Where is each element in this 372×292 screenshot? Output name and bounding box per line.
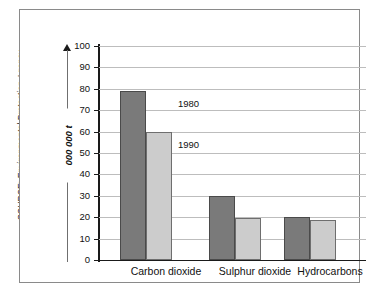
y-axis-tick-label: 10	[68, 233, 90, 244]
y-axis-tick-label: 90	[68, 61, 90, 72]
y-axis-tick-label: 70	[68, 104, 90, 115]
bar-1990-carbon-dioxide	[146, 132, 172, 260]
y-axis-tick-label: 50	[68, 147, 90, 158]
y-axis-tick-label: 0	[68, 254, 90, 265]
bar-1980-sulphur-dioxide	[209, 196, 235, 260]
axis-baseline	[99, 260, 366, 261]
y-axis-tick-label: 40	[68, 168, 90, 179]
chart-page: SOURCE: Environmental Protection Agency …	[0, 0, 372, 292]
gridline	[99, 67, 366, 68]
y-axis-tick-label: 80	[68, 83, 90, 94]
y-axis-tick-label: 30	[68, 190, 90, 201]
bar-1990-sulphur-dioxide	[235, 218, 261, 260]
y-axis-tick-label: 60	[68, 126, 90, 137]
bar-1980-carbon-dioxide	[120, 91, 146, 260]
gridline	[99, 89, 366, 90]
series-label-1990: 1990	[178, 139, 199, 150]
gridline	[99, 46, 366, 47]
bar-1990-hydrocarbons	[310, 220, 336, 260]
chart-frame: 000 000 t 1009080706050403020100 1980199…	[19, 9, 360, 283]
y-axis-tick-label: 100	[68, 40, 90, 51]
plot-area: 19801990	[99, 46, 366, 260]
series-label-1980: 1980	[178, 98, 199, 109]
x-axis-label-hydrocarbons: Hydrocarbons	[272, 265, 372, 277]
y-axis-tick-label: 20	[68, 211, 90, 222]
bar-1980-hydrocarbons	[284, 217, 310, 260]
